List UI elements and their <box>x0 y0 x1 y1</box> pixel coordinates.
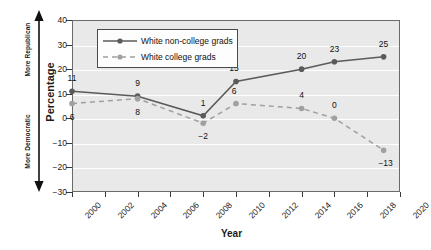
legend-label-non-college: White non-college grads <box>141 36 233 46</box>
x-tick-label: 2002 <box>115 200 135 220</box>
data-point-label: 25 <box>379 40 388 49</box>
data-point-label: 1 <box>201 99 206 108</box>
x-tick-label: 2012 <box>279 200 299 220</box>
x-tick-label: 2006 <box>181 200 201 220</box>
direction-label-republican: More Republican <box>24 11 31 89</box>
x-tick-label: 2014 <box>312 200 332 220</box>
legend-swatch-dashed-line-icon <box>103 51 137 63</box>
x-tick-mark <box>334 192 335 197</box>
gridline <box>73 168 399 169</box>
legend-item-college: White college grads <box>103 50 216 64</box>
x-tick-label: 2016 <box>345 200 365 220</box>
y-tick-label: 10 <box>33 89 67 98</box>
data-point-label: −2 <box>198 132 208 141</box>
x-tick-mark <box>269 192 270 197</box>
y-tick-label: 30 <box>33 40 67 49</box>
data-point-label: 6 <box>70 112 75 121</box>
x-tick-mark <box>72 192 73 197</box>
x-tick-label: 2010 <box>247 200 267 220</box>
x-tick-mark <box>105 192 106 197</box>
x-tick-label: 2004 <box>148 200 168 220</box>
x-axis-title: Year <box>0 228 423 239</box>
x-tick-mark <box>400 192 401 197</box>
gridline <box>73 144 399 145</box>
x-tick-label: 2020 <box>411 200 431 220</box>
legend-swatch-solid-line-icon <box>103 35 137 47</box>
data-point-label: 6 <box>232 86 237 95</box>
data-point-label: −13 <box>378 159 392 168</box>
data-point-label: 9 <box>135 79 140 88</box>
data-point-label: 20 <box>297 52 306 61</box>
x-tick-mark <box>203 192 204 197</box>
legend-label-college: White college grads <box>141 52 216 62</box>
y-tick-label: −30 <box>33 188 67 197</box>
y-tick-label: 0 <box>33 114 67 123</box>
x-tick-mark <box>138 192 139 197</box>
data-point-label: 23 <box>330 45 339 54</box>
y-tick-label: 40 <box>33 16 67 25</box>
data-point-label: 8 <box>135 107 140 116</box>
data-point-label: 4 <box>299 91 304 100</box>
gridline <box>73 119 399 120</box>
x-tick-label: 2018 <box>378 200 398 220</box>
y-tick-label: −20 <box>33 163 67 172</box>
legend: White non-college grads White college gr… <box>97 29 238 68</box>
x-tick-label: 2000 <box>83 200 103 220</box>
x-tick-mark <box>170 192 171 197</box>
x-tick-mark <box>236 192 237 197</box>
y-tick-label: −10 <box>33 139 67 148</box>
data-point-label: 0 <box>332 101 337 110</box>
y-tick-label: 20 <box>33 65 67 74</box>
x-tick-mark <box>302 192 303 197</box>
x-tick-mark <box>367 192 368 197</box>
data-point-label: 11 <box>68 74 77 83</box>
legend-item-non-college: White non-college grads <box>103 34 233 48</box>
x-tick-label: 2008 <box>214 200 234 220</box>
direction-label-democratic: More Democratic <box>24 103 31 181</box>
